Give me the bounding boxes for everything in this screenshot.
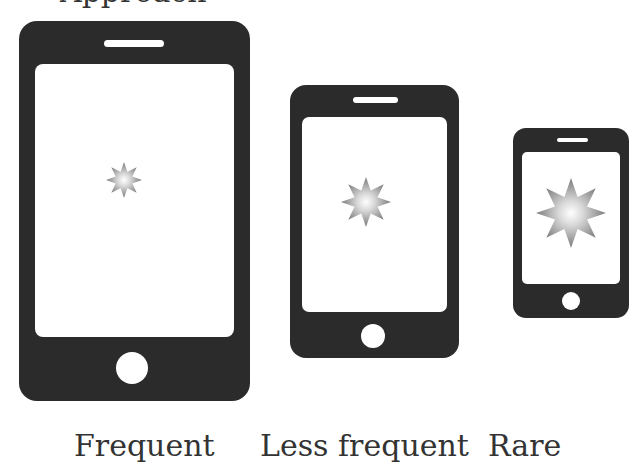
home-button	[116, 352, 148, 384]
burst-star-icon	[534, 176, 608, 250]
burst-star-icon	[104, 160, 144, 200]
speaker-slot	[104, 40, 164, 47]
cut-off-heading: Approach	[60, 0, 206, 9]
home-button	[361, 324, 385, 348]
home-button	[562, 292, 580, 310]
label-less-frequent: Less frequent	[260, 428, 469, 463]
speaker-slot	[557, 138, 588, 142]
burst-star-icon	[339, 175, 393, 229]
phone-large	[19, 21, 250, 401]
label-rare: Rare	[488, 428, 561, 463]
speaker-slot	[353, 97, 398, 103]
label-frequent: Frequent	[74, 428, 215, 463]
phone-screen	[35, 64, 234, 337]
